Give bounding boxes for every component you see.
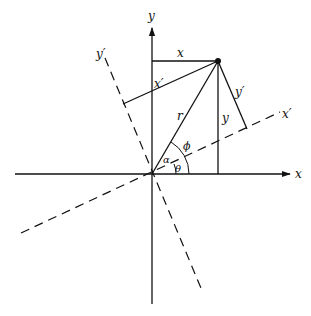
y-axis-label: y	[147, 9, 155, 23]
x-axis-label: x	[295, 167, 302, 181]
x-prime-component-label: x′	[154, 77, 164, 91]
y-component-label: y	[221, 111, 229, 125]
y-prime-axis	[105, 58, 203, 293]
y-prime-axis-label: y′	[95, 47, 106, 61]
phi-label: ϕ	[183, 140, 191, 153]
rotated-axes-diagram: y x y′ x′ x y x′ y′ r ϕ α θ	[0, 0, 311, 316]
x-prime-component-line	[123, 61, 218, 104]
y-prime-component-label: y′	[234, 85, 245, 99]
x-prime-axis	[21, 112, 280, 233]
alpha-label: α	[163, 154, 170, 165]
theta-label: θ	[175, 163, 181, 174]
point-marker	[215, 58, 221, 64]
x-prime-axis-label: x′	[282, 107, 292, 121]
x-component-label: x	[177, 46, 184, 60]
